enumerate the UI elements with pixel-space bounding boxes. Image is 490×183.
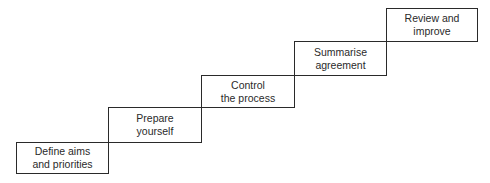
step-define-aims: Define aims and priorities xyxy=(16,142,109,174)
step-label: Define aims and priorities xyxy=(32,145,92,171)
step-label: Review and improve xyxy=(405,12,460,38)
step-label: Summarise agreement xyxy=(314,46,367,72)
step-prepare-yourself: Prepare yourself xyxy=(108,107,202,143)
step-label: Control the process xyxy=(221,79,275,105)
step-summarise-agreement: Summarise agreement xyxy=(294,41,387,76)
step-control-process: Control the process xyxy=(201,75,295,108)
step-review-improve: Review and improve xyxy=(386,8,478,42)
step-label: Prepare yourself xyxy=(136,112,173,138)
